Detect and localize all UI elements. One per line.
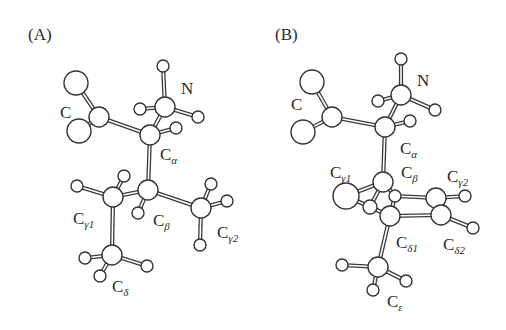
atom-c — [322, 107, 342, 127]
atom-o2 — [67, 119, 91, 143]
atom-hn2 — [372, 95, 384, 107]
label-n: N — [181, 79, 193, 98]
atom-o2 — [291, 120, 315, 144]
molecule-figure: (A)CNCαCγ1CβCγ2Cδ(B)CNCαCγ1CβCγ2Cδ1Cδ2Cε — [0, 0, 506, 330]
label-c-gamma2: Cγ2 — [217, 223, 239, 244]
atom-cg2 — [191, 198, 211, 218]
label-c-epsilon: Cε — [387, 292, 403, 313]
label-c-gamma1: Cγ1 — [73, 209, 94, 230]
atom-ca — [375, 117, 395, 137]
atom-hcg2 — [459, 190, 471, 202]
atom-hhid — [363, 200, 377, 214]
atom-cd2 — [431, 205, 451, 225]
label-c-beta: Cβ — [153, 211, 170, 232]
atom-hn1 — [157, 60, 169, 72]
atom-hn2 — [134, 103, 146, 115]
atom-o1 — [64, 71, 88, 95]
atom-hcec — [367, 284, 379, 296]
label-c-beta: Cβ — [401, 163, 418, 184]
atom-cb — [373, 172, 393, 192]
atom-hca — [170, 122, 182, 134]
atom-hceb — [400, 275, 412, 287]
panel-b: (B)CNCαCγ1CβCγ2Cδ1Cδ2Cε — [275, 25, 479, 313]
figure-canvas: (A)CNCαCγ1CβCγ2Cδ(B)CNCαCγ1CβCγ2Cδ1Cδ2Cε — [0, 0, 506, 330]
atom-o1 — [300, 70, 324, 94]
atom-c — [89, 107, 109, 127]
label-c-gamma1: Cγ1 — [330, 163, 351, 184]
panel-label: (B) — [275, 25, 298, 44]
label-n: N — [417, 71, 429, 90]
atom-cg1 — [103, 187, 123, 207]
atom-n — [155, 97, 175, 117]
atom-hcea — [336, 259, 348, 271]
atom-ce — [368, 257, 388, 277]
atom-hcd2 — [467, 222, 479, 234]
panel-a: (A)CNCαCγ1CβCγ2Cδ — [28, 25, 239, 298]
panel-label: (A) — [28, 25, 52, 44]
atom-ca — [140, 125, 160, 145]
label-c-delta1: Cδ1 — [396, 233, 418, 254]
atom-cg1 — [333, 183, 359, 209]
atom-cd1 — [380, 206, 400, 226]
atom-hn3 — [429, 104, 441, 116]
atom-hcg1b — [71, 180, 83, 192]
atom-hcb — [389, 190, 401, 202]
atom-hcdc — [141, 260, 153, 272]
atom-hcda — [79, 252, 91, 264]
atom-hca — [404, 115, 416, 127]
label-c-delta2: Cδ2 — [443, 235, 465, 256]
atom-hcg2b — [221, 195, 233, 207]
atom-hn3 — [192, 111, 204, 123]
atom-hcg2c — [194, 239, 206, 251]
label-carboxyl-c: C — [291, 95, 302, 114]
atom-cd — [102, 245, 122, 265]
label-c-alpha: Cα — [160, 145, 177, 166]
atom-hcdb — [94, 270, 106, 282]
label-c-gamma2: Cγ2 — [447, 167, 469, 188]
atom-hcb — [132, 207, 144, 219]
label-c-delta: Cδ — [112, 277, 129, 298]
atom-cb — [138, 180, 158, 200]
label-carboxyl-c: C — [60, 103, 71, 122]
atom-n — [391, 85, 411, 105]
label-c-alpha: Cα — [400, 139, 417, 160]
atom-hcg1a — [118, 170, 130, 182]
atom-hcg2a — [205, 178, 217, 190]
atom-hn1 — [395, 53, 407, 65]
